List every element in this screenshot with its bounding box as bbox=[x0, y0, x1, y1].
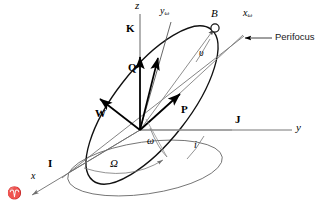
y-axis-label: y bbox=[296, 122, 301, 133]
angle-label-raan: Ω bbox=[110, 158, 118, 169]
y-omega-subscript: ω bbox=[164, 9, 169, 16]
orbit-ellipse bbox=[64, 7, 241, 204]
perifocus-label: Perifocus bbox=[275, 32, 315, 42]
x-omega-subscript: ω bbox=[247, 11, 252, 18]
unit-vector-K-label: K bbox=[126, 23, 135, 34]
radius-vector-to-body bbox=[140, 29, 214, 130]
unit-vector-I-label: I bbox=[48, 158, 52, 169]
angle-arc-raan bbox=[84, 160, 163, 173]
unit-vector-Q bbox=[140, 58, 158, 130]
unit-vector-W-label: W bbox=[95, 108, 106, 119]
unit-vector-J-label: J bbox=[235, 114, 241, 125]
aries-vernal-equinox-symbol: ♈ bbox=[7, 187, 22, 199]
unit-vector-P-label: P bbox=[181, 104, 188, 115]
z-axis-label: z bbox=[135, 0, 139, 11]
orbital-elements-figure: z y x ♈ K I J Q P W yω xω B Perifocus Ω … bbox=[0, 0, 316, 220]
body-marker bbox=[211, 24, 219, 32]
y-omega-axis-label: yω bbox=[160, 6, 169, 17]
angle-label-true-anomaly: υ bbox=[199, 48, 204, 58]
unit-vector-Q-label: Q bbox=[128, 62, 137, 73]
angle-label-argument-of-perifocus: ω bbox=[147, 136, 154, 146]
line-of-nodes bbox=[62, 36, 244, 178]
unit-vector-I bbox=[70, 130, 140, 172]
body-point-label: B bbox=[211, 8, 218, 19]
x-axis-label: x bbox=[31, 171, 35, 181]
diagram-canvas bbox=[0, 0, 316, 220]
reference-plane-ellipse bbox=[64, 131, 226, 204]
x-omega-axis-label: xω bbox=[243, 8, 252, 19]
unit-vector-W bbox=[100, 99, 140, 130]
angle-label-inclination: i bbox=[194, 140, 197, 150]
